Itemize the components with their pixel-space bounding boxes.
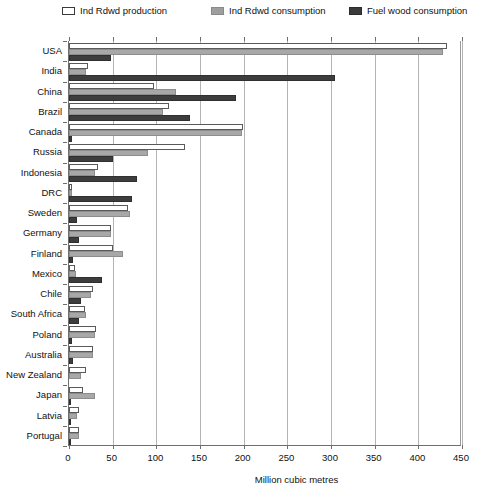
legend-item-consumption: Ind Rdwd consumption (211, 6, 326, 16)
x-axis-tick-label: 450 (453, 452, 469, 463)
bar-group (69, 326, 460, 346)
y-axis-tick-label: Australia (25, 350, 62, 360)
legend-item-production: Ind Rdwd production (62, 6, 167, 16)
y-axis-tick (63, 183, 67, 184)
x-axis-tick-bottom (462, 445, 463, 449)
bar-fuelwood (69, 358, 73, 364)
y-axis-tick-label: USA (42, 46, 62, 56)
bar-fuelwood (69, 115, 190, 121)
bar-chart: Ind Rdwd production Ind Rdwd consumption… (0, 0, 489, 498)
legend-label-production: Ind Rdwd production (80, 6, 167, 16)
bar-group (69, 286, 460, 306)
x-axis-title-text: Million cubic metres (255, 474, 338, 485)
y-axis-tick (63, 244, 67, 245)
bar-group (69, 63, 460, 83)
y-axis-tick (63, 163, 67, 164)
bar-group (69, 43, 460, 63)
y-axis-tick-label: Chile (40, 289, 62, 299)
bar-consumption (69, 211, 130, 217)
y-axis-tick-label: Canada (29, 127, 62, 137)
y-axis-tick-label: Indonesia (21, 168, 62, 178)
bar-group (69, 103, 460, 123)
bar-fuelwood (69, 217, 77, 223)
y-axis-tick (63, 345, 67, 346)
bar-group (69, 306, 460, 326)
bar-group (69, 83, 460, 103)
y-axis-tick (63, 203, 67, 204)
x-axis-tick-label: 250 (278, 452, 294, 463)
bar-fuelwood (69, 277, 102, 283)
y-axis-tick-label: Latvia (37, 411, 62, 421)
bar-fuelwood (69, 75, 335, 81)
y-axis-tick-label: Sweden (28, 208, 62, 218)
chart-legend: Ind Rdwd production Ind Rdwd consumption… (0, 6, 489, 24)
y-axis-tick (63, 41, 67, 42)
x-axis-tick-label: 100 (147, 452, 163, 463)
legend-swatch-production-icon (62, 7, 75, 15)
y-axis-tick (63, 426, 67, 427)
y-axis-tick-label: Mexico (32, 269, 62, 279)
bar-consumption (69, 332, 95, 338)
y-axis-tick-label: DRC (41, 188, 62, 198)
x-axis-title: Million cubic metres (0, 474, 489, 485)
y-axis-tick (63, 102, 67, 103)
bar-fuelwood (69, 95, 236, 101)
bar-consumption (69, 373, 81, 379)
y-axis-tick (63, 223, 67, 224)
y-axis-tick-label: South Africa (11, 309, 62, 319)
y-axis-tick (63, 446, 67, 447)
x-axis-tick-label: 400 (409, 452, 425, 463)
x-axis-tick-label: 150 (191, 452, 207, 463)
bar-fuelwood (69, 257, 73, 263)
plot-area (68, 41, 461, 446)
legend-label-consumption: Ind Rdwd consumption (229, 6, 326, 16)
bar-group (69, 225, 460, 245)
y-axis-tick (63, 122, 67, 123)
y-axis-tick (63, 284, 67, 285)
y-axis-tick (63, 142, 67, 143)
legend-item-fuelwood: Fuel wood consumption (349, 6, 467, 16)
bar-fuelwood (69, 439, 71, 445)
bar-fuelwood (69, 55, 111, 61)
y-axis-tick-label: Finland (31, 249, 62, 259)
y-axis-tick-label: Russia (33, 147, 62, 157)
y-axis-tick (63, 82, 67, 83)
y-axis-tick (63, 264, 67, 265)
y-axis-tick-label: Germany (23, 228, 62, 238)
legend-swatch-consumption-icon (211, 7, 224, 15)
y-axis-tick (63, 61, 67, 62)
y-axis-tick-label: Brazil (38, 107, 62, 117)
y-axis-tick-label: Japan (36, 390, 62, 400)
bar-consumption (69, 49, 443, 55)
x-axis-tick-label: 50 (106, 452, 117, 463)
legend-label-fuelwood: Fuel wood consumption (367, 6, 467, 16)
y-axis-tick-label: New Zealand (6, 370, 62, 380)
x-axis-tick-label: 0 (65, 452, 70, 463)
bar-fuelwood (69, 136, 72, 142)
bar-group (69, 184, 460, 204)
bar-group (69, 427, 460, 447)
bar-rows (69, 41, 460, 445)
x-axis-tick (462, 37, 463, 41)
bar-group (69, 245, 460, 265)
y-axis-labels: USAIndiaChinaBrazilCanadaRussiaIndonesia… (0, 41, 66, 446)
y-axis-tick-label: Portugal (27, 431, 62, 441)
x-axis-tick-label: 350 (366, 452, 382, 463)
bar-fuelwood (69, 237, 79, 243)
bar-group (69, 205, 460, 225)
bar-group (69, 164, 460, 184)
legend-swatch-fuelwood-icon (349, 7, 362, 15)
bar-fuelwood (69, 318, 79, 324)
bar-fuelwood (69, 399, 71, 405)
bar-group (69, 144, 460, 164)
bar-fuelwood (69, 196, 132, 202)
x-axis-tick-label: 200 (235, 452, 251, 463)
bar-consumption (69, 393, 95, 399)
bar-group (69, 367, 460, 387)
y-axis-tick (63, 304, 67, 305)
bar-fuelwood (69, 156, 113, 162)
bar-fuelwood (69, 338, 72, 344)
gridline (462, 41, 463, 445)
bar-group (69, 124, 460, 144)
y-axis-tick-label: India (41, 66, 62, 76)
